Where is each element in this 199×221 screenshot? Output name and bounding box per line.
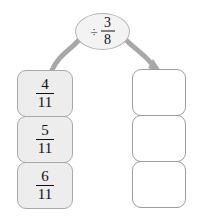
- input-column: 4 11 5 11 6 11: [17, 70, 73, 208]
- input-card[interactable]: 5 11: [17, 116, 73, 163]
- input-fraction-denominator: 11: [36, 94, 54, 110]
- operator-fraction-numerator: 3: [102, 16, 113, 31]
- input-fraction: 6 11: [36, 169, 54, 202]
- operator-expression: ÷ 3 8: [90, 16, 114, 47]
- operator-fraction-denominator: 8: [102, 32, 113, 47]
- output-column: [132, 69, 186, 207]
- division-sign-icon: ÷: [90, 25, 97, 38]
- output-card[interactable]: [132, 161, 186, 208]
- operator-fraction: 3 8: [101, 16, 115, 47]
- input-fraction-numerator: 5: [39, 123, 51, 139]
- input-fraction-numerator: 6: [39, 169, 51, 185]
- input-card[interactable]: 6 11: [17, 162, 73, 209]
- output-card[interactable]: [132, 69, 186, 116]
- input-fraction: 5 11: [36, 123, 54, 156]
- input-fraction-denominator: 11: [36, 140, 54, 156]
- output-card[interactable]: [132, 115, 186, 162]
- input-card[interactable]: 4 11: [17, 70, 73, 117]
- input-fraction: 4 11: [36, 77, 54, 110]
- input-fraction-denominator: 11: [36, 186, 54, 202]
- input-arrow: [52, 40, 79, 70]
- fraction-division-diagram: ÷ 3 8 4 11 5 11 6: [0, 0, 199, 221]
- operator-bubble: ÷ 3 8: [75, 13, 130, 50]
- input-fraction-numerator: 4: [39, 77, 51, 93]
